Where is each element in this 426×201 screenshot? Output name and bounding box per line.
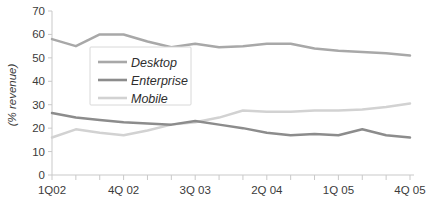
- x-axis-tick-marks: [52, 175, 410, 180]
- x-tick-label: 3Q 03: [180, 184, 211, 196]
- y-tick-label: 20: [32, 122, 45, 134]
- y-tick-label: 50: [32, 52, 45, 64]
- legend-label-desktop: Desktop: [131, 56, 177, 70]
- legend-label-enterprise: Enterprise: [131, 74, 188, 88]
- legend-label-mobile: Mobile: [131, 92, 168, 106]
- chart-legend: DesktopEnterpriseMobile: [90, 47, 191, 106]
- x-tick-label: 1Q02: [38, 184, 66, 196]
- y-axis-tick-marks: [48, 11, 52, 175]
- y-tick-label: 40: [32, 75, 45, 87]
- y-tick-label: 70: [32, 5, 45, 17]
- y-axis-title: (% revenue): [6, 64, 18, 127]
- x-axis-tick-labels: 1Q024Q 023Q 032Q 041Q 054Q 05: [38, 184, 426, 196]
- chart-container: (% revenue) 010203040506070 1Q024Q 023Q …: [0, 0, 426, 201]
- y-tick-label: 30: [32, 99, 45, 111]
- line-chart: (% revenue) 010203040506070 1Q024Q 023Q …: [0, 0, 426, 201]
- x-tick-label: 2Q 04: [251, 184, 283, 196]
- x-tick-label: 1Q 05: [323, 184, 354, 196]
- x-tick-label: 4Q 02: [108, 184, 139, 196]
- y-tick-label: 10: [32, 146, 45, 158]
- y-tick-label: 0: [39, 169, 45, 181]
- y-tick-label: 60: [32, 28, 45, 40]
- y-axis-tick-labels: 010203040506070: [32, 5, 45, 181]
- y-axis-title-text: (% revenue): [6, 64, 18, 127]
- x-tick-label: 4Q 05: [394, 184, 425, 196]
